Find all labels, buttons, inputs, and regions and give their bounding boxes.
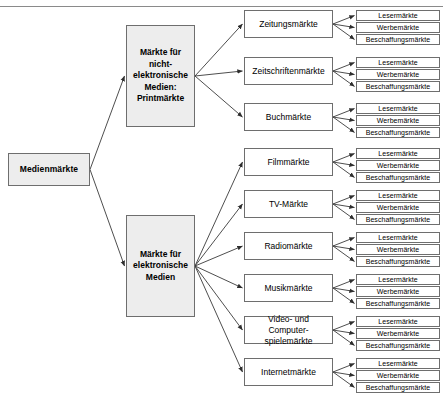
connector-buchmarkte-to-beschaffungsmarkte (333, 117, 355, 133)
node-leaf-tv-markte-lesermarkte-label: Lesermärkte (357, 191, 439, 200)
connector-musikmarkte-to-lesermarkte (333, 280, 355, 289)
connector-internetmarkte-to-lesermarkte (333, 364, 355, 373)
node-category-zeitschriftenmarkte[interactable]: Zeitschriftenmärkte (244, 57, 333, 85)
node-root-medienmaerkte-label: Medienmärkte (9, 164, 89, 176)
node-category-buchmarkte-label: Buchmärkte (245, 112, 332, 123)
node-leaf-zeitungsmarkte-lesermarkte-label: Lesermärkte (357, 11, 439, 20)
connector-musikmarkte-to-beschaffungsmarkte (333, 288, 355, 304)
connector-electronic-to-video-und-computer-spielemarkte (195, 266, 243, 330)
node-leaf-zeitschriftenmarkte-lesermarkte-label: Lesermärkte (357, 58, 439, 67)
node-leaf-zeitungsmarkte-werbemarkte-label: Werbemärkte (357, 23, 439, 32)
node-leaf-video-und-computer-spielemarkte-lesermarkte[interactable]: Lesermärkte (356, 316, 440, 327)
node-leaf-musikmarkte-beschaffungsmarkte-label: Beschaffungsmärkte (357, 299, 439, 308)
node-leaf-radiomarkte-beschaffungsmarkte[interactable]: Beschaffungsmärkte (356, 256, 440, 267)
node-leaf-buchmarkte-beschaffungsmarkte-label: Beschaffungsmärkte (357, 128, 439, 137)
connector-zeitschriftenmarkte-to-werbemarkte (333, 71, 355, 75)
connector-electronic-to-internetmarkte (195, 266, 243, 372)
node-category-radiomarkte[interactable]: Radiomärkte (244, 232, 333, 260)
node-leaf-radiomarkte-beschaffungsmarkte-label: Beschaffungsmärkte (357, 257, 439, 266)
node-leaf-video-und-computer-spielemarkte-werbemarkte-label: Werbemärkte (357, 329, 439, 338)
node-leaf-radiomarkte-werbemarkte-label: Werbemärkte (357, 245, 439, 254)
connector-zeitungsmarkte-to-lesermarkte (333, 16, 355, 25)
node-leaf-zeitungsmarkte-beschaffungsmarkte[interactable]: Beschaffungsmärkte (356, 34, 440, 45)
node-leaf-musikmarkte-lesermarkte[interactable]: Lesermärkte (356, 274, 440, 285)
node-category-zeitungsmarkte[interactable]: Zeitungsmärkte (244, 10, 333, 38)
connector-filmmarkte-to-lesermarkte (333, 154, 355, 163)
connector-musikmarkte-to-werbemarkte (333, 288, 355, 292)
connector-tv-markte-to-beschaffungsmarkte (333, 204, 355, 220)
node-leaf-zeitschriftenmarkte-beschaffungsmarkte[interactable]: Beschaffungsmärkte (356, 81, 440, 92)
node-leaf-zeitungsmarkte-lesermarkte[interactable]: Lesermärkte (356, 10, 440, 21)
node-leaf-video-und-computer-spielemarkte-beschaffungsmarkte[interactable]: Beschaffungsmärkte (356, 340, 440, 351)
node-category-video-und-computer-spielemarkte-label: Video- und Computer-spielemärkte (245, 314, 332, 347)
connector-internetmarkte-to-beschaffungsmarkte (333, 372, 355, 388)
node-leaf-internetmarkte-lesermarkte-label: Lesermärkte (357, 359, 439, 368)
node-leaf-musikmarkte-beschaffungsmarkte[interactable]: Beschaffungsmärkte (356, 298, 440, 309)
node-root-medienmaerkte[interactable]: Medienmärkte (8, 153, 90, 186)
node-leaf-buchmarkte-beschaffungsmarkte[interactable]: Beschaffungsmärkte (356, 127, 440, 138)
connector-print-to-zeitungsmarkte (195, 24, 243, 76)
node-branch-electronic[interactable]: Märkte fürelektronischeMedien (126, 215, 195, 317)
node-leaf-buchmarkte-lesermarkte-label: Lesermärkte (357, 104, 439, 113)
node-category-filmmarkte[interactable]: Filmmärkte (244, 148, 333, 176)
node-category-radiomarkte-label: Radiomärkte (245, 241, 332, 252)
node-category-buchmarkte[interactable]: Buchmärkte (244, 103, 333, 131)
node-leaf-filmmarkte-werbemarkte-label: Werbemärkte (357, 161, 439, 170)
node-branch-print-label: Märkte fürnicht-elektronischeMedien:Prin… (127, 47, 194, 105)
node-leaf-internetmarkte-lesermarkte[interactable]: Lesermärkte (356, 358, 440, 369)
node-leaf-filmmarkte-lesermarkte[interactable]: Lesermärkte (356, 148, 440, 159)
connector-video-und-computer-spielemarkte-to-lesermarkte (333, 322, 355, 331)
connector-video-und-computer-spielemarkte-to-werbemarkte (333, 330, 355, 334)
node-leaf-video-und-computer-spielemarkte-werbemarkte[interactable]: Werbemärkte (356, 328, 440, 339)
node-leaf-radiomarkte-werbemarkte[interactable]: Werbemärkte (356, 244, 440, 255)
node-leaf-filmmarkte-werbemarkte[interactable]: Werbemärkte (356, 160, 440, 171)
connector-zeitungsmarkte-to-beschaffungsmarkte (333, 24, 355, 40)
node-leaf-musikmarkte-lesermarkte-label: Lesermärkte (357, 275, 439, 284)
node-category-zeitungsmarkte-label: Zeitungsmärkte (245, 19, 332, 30)
connector-buchmarkte-to-werbemarkte (333, 117, 355, 121)
node-leaf-internetmarkte-beschaffungsmarkte-label: Beschaffungsmärkte (357, 383, 439, 392)
node-leaf-buchmarkte-lesermarkte[interactable]: Lesermärkte (356, 103, 440, 114)
node-leaf-musikmarkte-werbemarkte-label: Werbemärkte (357, 287, 439, 296)
node-leaf-filmmarkte-beschaffungsmarkte-label: Beschaffungsmärkte (357, 173, 439, 182)
node-category-internetmarkte[interactable]: Internetmärkte (244, 358, 333, 386)
node-leaf-video-und-computer-spielemarkte-lesermarkte-label: Lesermärkte (357, 317, 439, 326)
node-leaf-filmmarkte-beschaffungsmarkte[interactable]: Beschaffungsmärkte (356, 172, 440, 183)
node-category-tv-markte[interactable]: TV-Märkte (244, 190, 333, 218)
connector-tv-markte-to-werbemarkte (333, 204, 355, 208)
node-leaf-zeitschriftenmarkte-werbemarkte[interactable]: Werbemärkte (356, 69, 440, 80)
connector-filmmarkte-to-beschaffungsmarkte (333, 162, 355, 178)
node-leaf-musikmarkte-werbemarkte[interactable]: Werbemärkte (356, 286, 440, 297)
node-category-internetmarkte-label: Internetmärkte (245, 367, 332, 378)
connector-tv-markte-to-lesermarkte (333, 196, 355, 205)
node-leaf-radiomarkte-lesermarkte[interactable]: Lesermärkte (356, 232, 440, 243)
node-leaf-zeitschriftenmarkte-lesermarkte[interactable]: Lesermärkte (356, 57, 440, 68)
connector-print-to-zeitschriftenmarkte (195, 71, 243, 76)
node-leaf-internetmarkte-beschaffungsmarkte[interactable]: Beschaffungsmärkte (356, 382, 440, 393)
node-leaf-buchmarkte-werbemarkte[interactable]: Werbemärkte (356, 115, 440, 126)
connector-internetmarkte-to-werbemarkte (333, 372, 355, 376)
node-leaf-tv-markte-lesermarkte[interactable]: Lesermärkte (356, 190, 440, 201)
connector-zeitschriftenmarkte-to-lesermarkte (333, 63, 355, 72)
connector-zeitschriftenmarkte-to-beschaffungsmarkte (333, 71, 355, 87)
node-leaf-internetmarkte-werbemarkte-label: Werbemärkte (357, 371, 439, 380)
connector-buchmarkte-to-lesermarkte (333, 109, 355, 118)
node-leaf-zeitungsmarkte-werbemarkte[interactable]: Werbemärkte (356, 22, 440, 33)
node-category-video-und-computer-spielemarkte[interactable]: Video- und Computer-spielemärkte (244, 316, 333, 344)
node-category-musikmarkte-label: Musikmärkte (245, 283, 332, 294)
node-leaf-buchmarkte-werbemarkte-label: Werbemärkte (357, 116, 439, 125)
connector-radiomarkte-to-lesermarkte (333, 238, 355, 247)
node-leaf-tv-markte-werbemarkte[interactable]: Werbemärkte (356, 202, 440, 213)
node-leaf-radiomarkte-lesermarkte-label: Lesermärkte (357, 233, 439, 242)
connector-radiomarkte-to-werbemarkte (333, 246, 355, 250)
node-category-musikmarkte[interactable]: Musikmärkte (244, 274, 333, 302)
node-leaf-internetmarkte-werbemarkte[interactable]: Werbemärkte (356, 370, 440, 381)
node-leaf-zeitschriftenmarkte-beschaffungsmarkte-label: Beschaffungsmärkte (357, 82, 439, 91)
node-category-tv-markte-label: TV-Märkte (245, 199, 332, 210)
connector-zeitungsmarkte-to-werbemarkte (333, 24, 355, 28)
node-branch-print[interactable]: Märkte fürnicht-elektronischeMedien:Prin… (126, 25, 195, 127)
node-leaf-tv-markte-beschaffungsmarkte[interactable]: Beschaffungsmärkte (356, 214, 440, 225)
node-leaf-filmmarkte-lesermarkte-label: Lesermärkte (357, 149, 439, 158)
connector-video-und-computer-spielemarkte-to-beschaffungsmarkte (333, 330, 355, 346)
node-leaf-video-und-computer-spielemarkte-beschaffungsmarkte-label: Beschaffungsmärkte (357, 341, 439, 350)
